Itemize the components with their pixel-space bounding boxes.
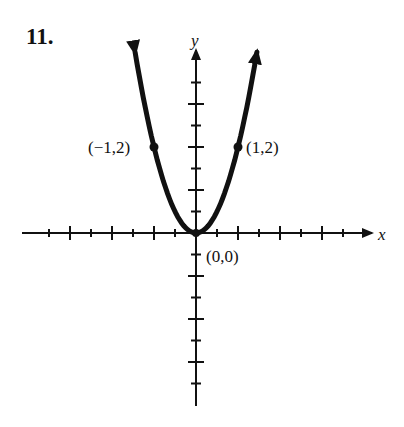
plot-area: (−1,2)(1,2)(0,0) x y (0, 0, 404, 427)
parabola-figure: 11. (−1,2)(1,2)(0,0) x y (0, 0, 404, 427)
point-marker (150, 143, 159, 152)
origin-marker (192, 229, 200, 237)
labeled-points: (−1,2)(1,2)(0,0) (88, 138, 279, 266)
point-label: (1,2) (246, 138, 279, 157)
point-label: (0,0) (206, 247, 239, 266)
point-label: (−1,2) (88, 138, 130, 157)
point-marker (234, 143, 243, 152)
y-axis-label: y (189, 31, 199, 50)
x-axis-label: x (377, 225, 386, 244)
